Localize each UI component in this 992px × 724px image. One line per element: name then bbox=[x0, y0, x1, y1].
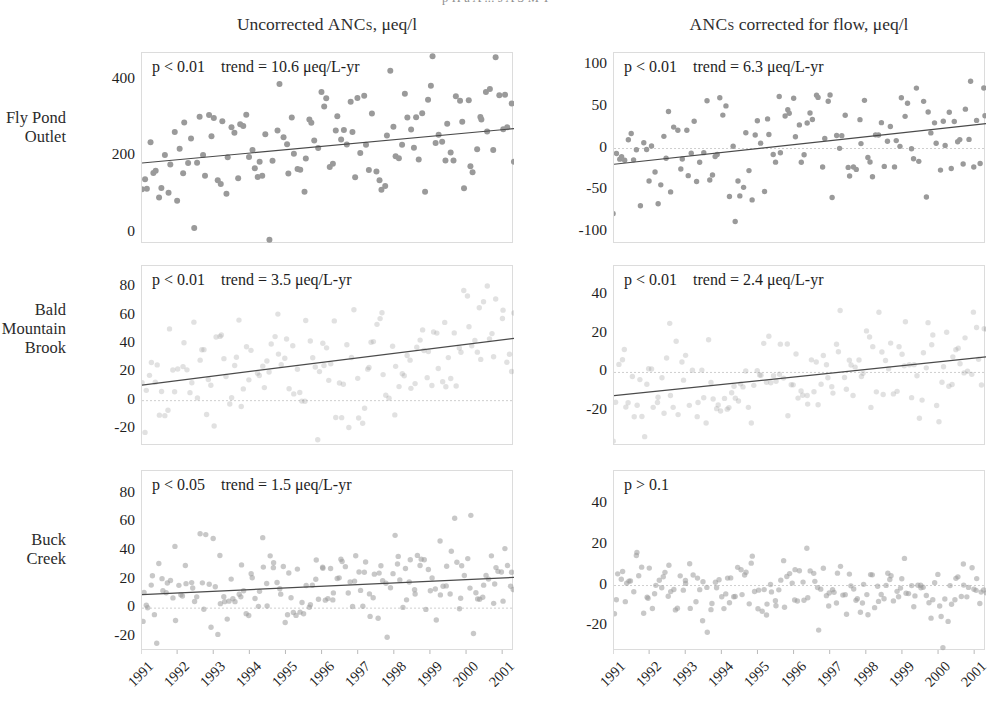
data-point bbox=[276, 351, 281, 356]
data-point bbox=[374, 322, 379, 327]
data-point bbox=[315, 145, 321, 151]
data-point bbox=[227, 401, 232, 406]
data-point bbox=[709, 601, 714, 606]
data-point bbox=[416, 156, 422, 162]
data-point bbox=[961, 582, 966, 587]
data-point bbox=[882, 164, 887, 169]
data-point bbox=[232, 363, 237, 368]
x-tick-label-1992: 1992 bbox=[157, 658, 193, 694]
data-point bbox=[302, 189, 308, 195]
data-point bbox=[261, 564, 266, 569]
data-point bbox=[655, 201, 660, 206]
y-tick-label: -20 bbox=[79, 626, 135, 644]
y-tick-label: 0 bbox=[551, 575, 607, 593]
data-point bbox=[270, 158, 276, 164]
data-point bbox=[839, 133, 844, 138]
data-point bbox=[278, 591, 283, 596]
data-point bbox=[937, 603, 942, 608]
data-point bbox=[861, 582, 866, 587]
trend-text: trend = 6.3 μeq/L-yr bbox=[693, 58, 823, 75]
data-point bbox=[860, 600, 865, 605]
x-tick-label-1994: 1994 bbox=[229, 658, 265, 694]
data-point bbox=[684, 128, 689, 133]
data-point bbox=[165, 408, 170, 413]
data-point bbox=[952, 119, 957, 124]
data-point bbox=[417, 563, 422, 568]
data-point bbox=[614, 211, 616, 216]
data-point bbox=[729, 390, 734, 395]
data-point bbox=[678, 573, 683, 578]
data-point bbox=[762, 189, 767, 194]
data-point bbox=[213, 584, 218, 589]
data-point bbox=[644, 382, 649, 387]
data-point bbox=[282, 356, 287, 361]
data-point bbox=[167, 161, 173, 167]
data-point bbox=[150, 573, 155, 578]
column-header-flow-corrected: ANCs corrected for flow, μeq/l bbox=[613, 14, 985, 35]
data-point bbox=[266, 237, 272, 243]
data-point bbox=[870, 572, 875, 577]
data-point bbox=[336, 575, 341, 580]
data-point bbox=[776, 587, 781, 592]
data-point bbox=[203, 532, 208, 537]
data-point bbox=[346, 590, 351, 595]
data-point bbox=[969, 372, 974, 377]
data-point bbox=[192, 599, 197, 604]
data-point bbox=[723, 591, 728, 596]
data-point bbox=[831, 590, 836, 595]
data-point bbox=[843, 592, 848, 597]
row-label-line: Brook bbox=[2, 338, 66, 357]
data-point bbox=[924, 593, 929, 598]
data-point bbox=[279, 362, 284, 367]
data-point bbox=[787, 571, 792, 576]
x-tick-label-1998: 1998 bbox=[846, 658, 882, 694]
data-point bbox=[172, 129, 178, 135]
data-point bbox=[452, 516, 457, 521]
data-point bbox=[402, 91, 408, 97]
p-value-text: p < 0.01 bbox=[152, 271, 205, 288]
data-point bbox=[732, 219, 737, 224]
scatter-points bbox=[614, 79, 986, 225]
data-point bbox=[384, 635, 389, 640]
data-point bbox=[147, 373, 152, 378]
data-point bbox=[818, 586, 823, 591]
data-point bbox=[639, 414, 644, 419]
data-point bbox=[653, 583, 658, 588]
data-point bbox=[461, 288, 466, 293]
data-point bbox=[496, 92, 502, 98]
data-point bbox=[751, 383, 756, 388]
data-point bbox=[190, 585, 195, 590]
data-point bbox=[353, 553, 358, 558]
data-point bbox=[812, 579, 817, 584]
data-point bbox=[201, 607, 206, 612]
data-point bbox=[805, 393, 810, 398]
x-tick-label-2001: 2001 bbox=[482, 658, 518, 694]
data-point bbox=[481, 299, 486, 304]
row-label-line: Bald bbox=[2, 300, 66, 319]
data-point bbox=[491, 354, 496, 359]
data-point bbox=[979, 382, 984, 387]
figure-root: p H a A ... s A S M T Uncorrected ANCs, … bbox=[0, 0, 992, 724]
data-point bbox=[366, 167, 372, 173]
data-point bbox=[641, 140, 646, 145]
data-point bbox=[822, 136, 827, 141]
row-label-buck-creek: BuckCreek bbox=[27, 530, 66, 568]
data-point bbox=[491, 601, 496, 606]
trend-text: trend = 3.5 μeq/L-yr bbox=[221, 271, 351, 288]
p-value-text: p < 0.01 bbox=[624, 271, 677, 288]
data-point bbox=[467, 585, 472, 590]
data-point bbox=[644, 147, 649, 152]
data-point bbox=[755, 118, 760, 123]
data-point bbox=[392, 533, 397, 538]
data-point bbox=[465, 293, 470, 298]
data-point bbox=[362, 569, 367, 574]
data-point bbox=[502, 546, 507, 551]
data-point bbox=[392, 412, 397, 417]
data-point bbox=[271, 565, 276, 570]
stat-annotation-bald-mountain-brook-flowcorrected: p < 0.01trend = 2.4 μeq/L-yr bbox=[624, 271, 824, 289]
data-point bbox=[768, 582, 773, 587]
data-point bbox=[807, 110, 812, 115]
data-point bbox=[821, 353, 826, 358]
data-point bbox=[168, 578, 173, 583]
data-point bbox=[219, 118, 225, 124]
